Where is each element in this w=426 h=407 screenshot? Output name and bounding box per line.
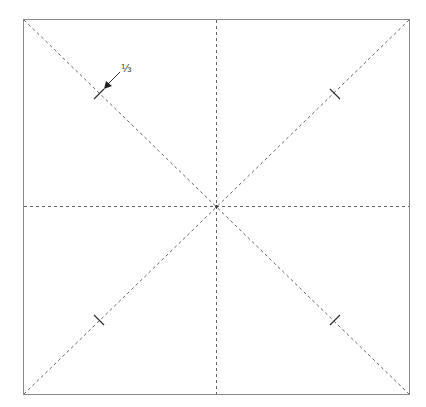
fold-diagram: ⅓ xyxy=(0,0,426,407)
tick-bottom-right xyxy=(330,315,340,325)
arrow-head-icon xyxy=(104,81,112,89)
center-point xyxy=(215,205,218,208)
tick-top-left xyxy=(94,89,104,99)
arrow-shaft xyxy=(108,72,120,84)
tick-top-right xyxy=(330,89,340,99)
tick-bottom-left xyxy=(94,315,104,325)
one-third-label: ⅓ xyxy=(121,62,132,75)
one-third-annotation: ⅓ xyxy=(104,62,132,89)
